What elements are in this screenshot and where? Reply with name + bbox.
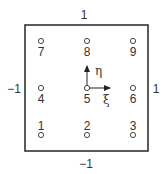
node-marker [38, 132, 43, 137]
bottom-boundary-label: −1 [79, 157, 93, 171]
node-marker [38, 38, 43, 43]
element-diagram: 1 −1 −1 1 7 8 9 4 5 6 1 2 3 η ξ [0, 0, 166, 174]
node-8: 8 [84, 38, 91, 59]
node-label: 9 [130, 45, 137, 59]
left-boundary-label: −1 [7, 82, 21, 96]
node-marker [38, 85, 43, 90]
node-4: 4 [38, 85, 45, 106]
node-label: 3 [130, 119, 137, 133]
node-3: 3 [130, 119, 137, 138]
right-boundary-label: 1 [153, 82, 160, 96]
node-6: 6 [130, 85, 137, 106]
node-label: 4 [38, 92, 45, 106]
eta-axis-label: η [95, 64, 102, 78]
node-label: 7 [38, 45, 45, 59]
node-marker [130, 38, 135, 43]
node-marker [130, 85, 135, 90]
node-marker [84, 85, 89, 90]
node-marker [84, 132, 89, 137]
node-label: 2 [84, 119, 91, 133]
node-label: 1 [38, 119, 45, 133]
node-label: 8 [84, 45, 91, 59]
node-1: 1 [38, 119, 45, 138]
node-7: 7 [38, 38, 45, 59]
node-2: 2 [84, 119, 91, 138]
node-9: 9 [130, 38, 137, 59]
node-marker [84, 38, 89, 43]
top-boundary-label: 1 [81, 8, 88, 22]
xi-axis-label: ξ [103, 93, 110, 107]
node-label: 6 [130, 92, 137, 106]
node-label: 5 [84, 92, 91, 106]
node-marker [130, 132, 135, 137]
